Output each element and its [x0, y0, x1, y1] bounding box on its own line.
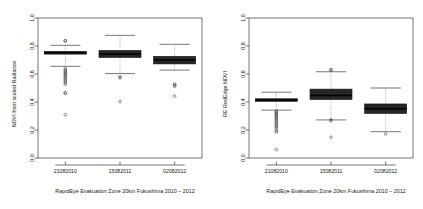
boxplot-box	[365, 88, 407, 132]
x-axis-title: RapidEye Evakuation Zone 20km Fukushima …	[266, 188, 405, 194]
outlier-points	[384, 133, 387, 136]
boxplot-box	[255, 92, 297, 110]
x-tick-label: 15082011	[109, 168, 132, 174]
y-tick-label: 1.0	[29, 14, 35, 22]
y-tick-label: 0.0	[29, 154, 35, 162]
boxplot-box	[44, 45, 86, 66]
boxplot-box	[154, 44, 196, 70]
x-tick-label: 21082010	[265, 168, 288, 174]
x-tick-label: 15082011	[320, 168, 343, 174]
y-axis-title: RE RedEdge NDVI	[222, 71, 228, 117]
y-tick-label: 0.2	[240, 126, 246, 134]
y-tick-label: 0.4	[29, 98, 35, 106]
boxplot-box	[99, 35, 141, 73]
y-tick-label: 0.8	[29, 42, 35, 50]
outlier-points	[275, 110, 278, 151]
outlier-points	[173, 83, 176, 98]
x-axis-title: RapidEye Evakuation Zone 20km Fukushima …	[55, 188, 194, 194]
y-tick-label: 0.2	[29, 126, 35, 134]
y-tick-label: 0.0	[240, 154, 246, 162]
x-tick-label: 02082012	[374, 168, 397, 174]
x-tick-label: 21082010	[54, 168, 77, 174]
panel-left-plot: 0.00.20.40.60.81.02108201015082011020820…	[0, 0, 211, 209]
panel-right-plot: 0.00.20.40.60.81.02108201015082011020820…	[211, 0, 422, 209]
boxplot-box	[310, 72, 352, 120]
y-tick-label: 1.0	[240, 14, 246, 22]
y-tick-label: 0.6	[29, 70, 35, 78]
y-tick-label: 0.4	[240, 98, 246, 106]
y-axis-title: NDVI from scaled Radiance	[11, 61, 17, 128]
boxplot-figure: 0.00.20.40.60.81.02108201015082011020820…	[0, 0, 423, 209]
y-tick-label: 0.6	[240, 70, 246, 78]
x-tick-label: 02082012	[163, 168, 186, 174]
panel-ndvi-scaled-radiance: 0.00.20.40.60.81.02108201015082011020820…	[0, 0, 211, 209]
panel-re-rededge-ndvi: 0.00.20.40.60.81.02108201015082011020820…	[211, 0, 422, 209]
outlier-points	[119, 76, 122, 103]
y-tick-label: 0.8	[240, 42, 246, 50]
